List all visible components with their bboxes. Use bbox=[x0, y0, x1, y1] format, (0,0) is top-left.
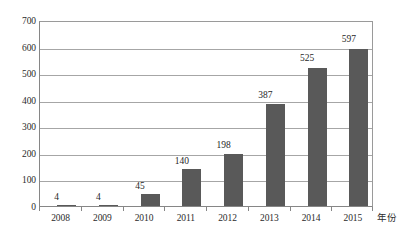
x-axis: 2008 2009 2010 2011 2012 2013 2014 2015 bbox=[0, 212, 415, 230]
y-tick-label: 0 bbox=[2, 202, 36, 212]
bar-value-2011: 140 bbox=[162, 156, 202, 167]
y-tick-label: 600 bbox=[2, 43, 36, 53]
x-tick-label-2015: 2015 bbox=[331, 212, 375, 224]
bar-value-2010: 45 bbox=[120, 181, 160, 192]
y-tick-label: 300 bbox=[2, 122, 36, 132]
x-tick bbox=[164, 207, 165, 211]
y-tick-label: 400 bbox=[2, 96, 36, 106]
bar-2010[interactable] bbox=[141, 194, 160, 206]
x-tick bbox=[81, 207, 82, 211]
x-tick bbox=[39, 207, 40, 211]
x-tick bbox=[248, 207, 249, 211]
y-axis: 700 600 500 400 300 200 100 0 bbox=[0, 21, 36, 207]
bar-2011[interactable] bbox=[182, 169, 201, 206]
bar-value-2012: 198 bbox=[204, 140, 244, 151]
x-tick-label-2011: 2011 bbox=[164, 212, 208, 224]
bar-2008[interactable] bbox=[57, 205, 76, 206]
y-tick-label: 500 bbox=[2, 69, 36, 79]
bar-2012[interactable] bbox=[224, 154, 243, 206]
bar-2014[interactable] bbox=[308, 68, 327, 206]
x-tick bbox=[206, 207, 207, 211]
x-tick-label-2013: 2013 bbox=[247, 212, 291, 224]
x-tick bbox=[290, 207, 291, 211]
x-tick bbox=[123, 207, 124, 211]
x-tick-label-2010: 2010 bbox=[122, 212, 166, 224]
x-tick bbox=[372, 207, 373, 211]
bar-chart: 700 600 500 400 300 200 100 0 4 4 45 140… bbox=[0, 0, 415, 248]
bar-value-2014: 525 bbox=[287, 53, 327, 64]
x-tick-label-2009: 2009 bbox=[80, 212, 124, 224]
x-tick bbox=[331, 207, 332, 211]
x-tick-label-2008: 2008 bbox=[39, 212, 83, 224]
x-axis-title: 年份 bbox=[377, 212, 413, 224]
bar-2013[interactable] bbox=[266, 104, 285, 206]
y-tick-label: 200 bbox=[2, 149, 36, 159]
x-tick-label-2014: 2014 bbox=[289, 212, 333, 224]
bar-value-2013: 387 bbox=[245, 90, 285, 101]
plot-area bbox=[39, 21, 373, 207]
y-tick-label: 700 bbox=[2, 16, 36, 26]
bar-2015[interactable] bbox=[349, 49, 368, 206]
bar-value-2009: 4 bbox=[78, 192, 118, 203]
x-tick-label-2012: 2012 bbox=[206, 212, 250, 224]
bar-2009[interactable] bbox=[99, 205, 118, 206]
bar-value-2015: 597 bbox=[329, 34, 369, 45]
y-tick-label: 100 bbox=[2, 175, 36, 185]
gridline-600 bbox=[40, 49, 372, 50]
bar-value-2008: 4 bbox=[37, 192, 77, 203]
